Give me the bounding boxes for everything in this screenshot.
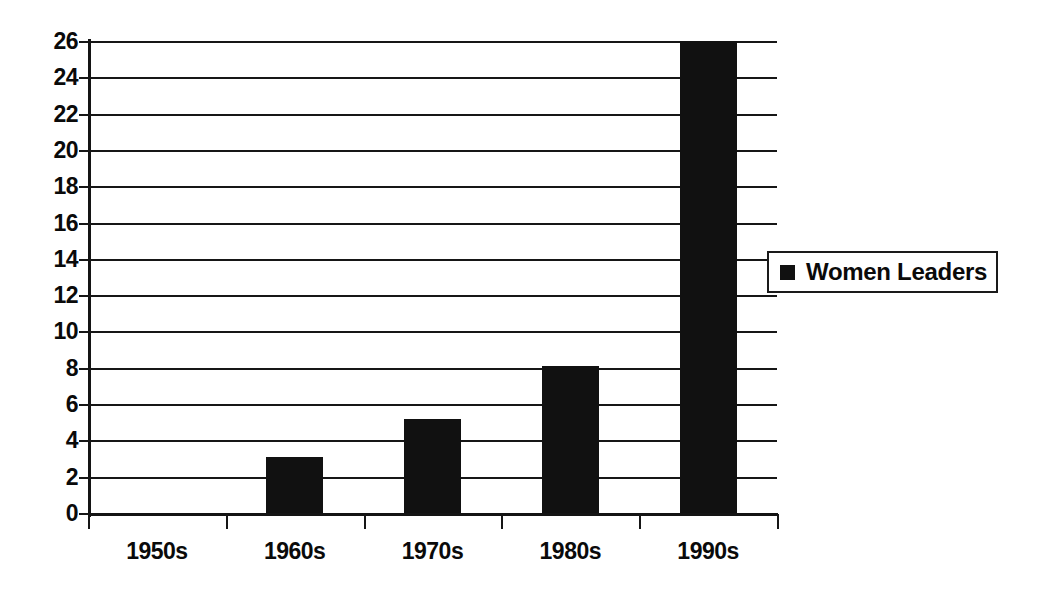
chart-legend: Women Leaders	[767, 251, 998, 293]
x-axis-labels: 1950s1960s1970s1980s1990s	[88, 540, 778, 580]
x-axis-tick	[639, 514, 641, 529]
x-axis-tick	[88, 514, 90, 529]
bar	[404, 419, 461, 513]
y-axis-tick-label: 16	[0, 211, 78, 234]
x-axis-tick	[777, 514, 779, 529]
x-axis-line	[88, 513, 778, 516]
gridline	[88, 150, 777, 152]
gridline	[88, 41, 777, 43]
y-axis-tick-label: 24	[0, 66, 78, 89]
y-axis-tick-label: 6	[0, 393, 78, 416]
y-axis-tick-label: 22	[0, 102, 78, 125]
x-axis-category-label: 1970s	[364, 540, 502, 563]
bar	[542, 366, 599, 513]
y-axis-labels: 26242220181614121086420	[0, 0, 78, 598]
x-axis-tick	[364, 514, 366, 529]
gridline	[88, 368, 777, 370]
y-axis-tick-label: 10	[0, 320, 78, 343]
y-axis-tick-label: 4	[0, 429, 78, 452]
y-axis-tick-label: 0	[0, 502, 78, 525]
y-axis-tick-label: 20	[0, 138, 78, 161]
gridline	[88, 77, 777, 79]
gridline	[88, 114, 777, 116]
plot-area	[88, 41, 777, 513]
gridline	[88, 223, 777, 225]
gridline	[88, 259, 777, 261]
x-axis-tick	[226, 514, 228, 529]
y-axis-tick-label: 8	[0, 356, 78, 379]
y-axis-tick-label: 26	[0, 30, 78, 53]
x-axis-tick	[501, 514, 503, 529]
legend-item-label: Women Leaders	[806, 260, 987, 284]
x-axis-category-label: 1980s	[501, 540, 639, 563]
y-axis-tick-label: 12	[0, 284, 78, 307]
x-axis-category-label: 1990s	[639, 540, 777, 563]
x-axis-category-label: 1950s	[88, 540, 226, 563]
y-axis-tick-label: 14	[0, 247, 78, 270]
x-axis-category-label: 1960s	[226, 540, 364, 563]
y-axis-tick-label: 2	[0, 465, 78, 488]
square-marker-icon	[780, 265, 795, 280]
bar	[266, 457, 323, 513]
gridline	[88, 331, 777, 333]
gridline	[88, 404, 777, 406]
bar-chart: 26242220181614121086420 1950s1960s1970s1…	[0, 0, 1063, 598]
y-axis-tick-label: 18	[0, 175, 78, 198]
bar	[680, 41, 737, 513]
gridline	[88, 186, 777, 188]
gridline	[88, 295, 777, 297]
